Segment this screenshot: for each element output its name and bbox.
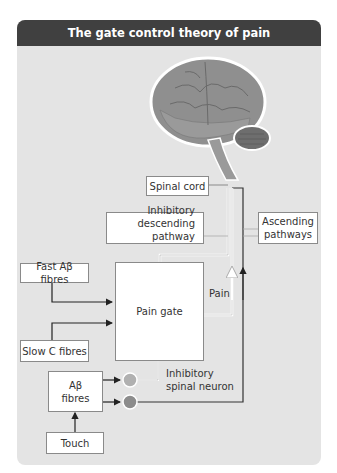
pain-gate-box: Pain gate	[115, 262, 204, 361]
slow-fibres-box: Slow C fibres	[20, 340, 89, 362]
inhibitory-descending-label-1: Inhibitory	[147, 204, 195, 217]
pain-label: Pain	[209, 287, 230, 300]
inhibitory-neuron-icon	[123, 373, 137, 387]
inhibitory-spinal-label-2: spinal neuron	[166, 380, 234, 393]
touch-box: Touch	[46, 432, 104, 454]
inhibitory-spinal-label-1: Inhibitory	[166, 367, 234, 380]
slow-fibres-label: Slow C fibres	[22, 345, 87, 358]
projection-neuron-icon	[123, 395, 137, 409]
ascending-pathways-box: Ascending pathways	[258, 212, 318, 244]
ab-fibres-label-2: fibres	[62, 392, 90, 405]
brain-icon	[151, 58, 270, 180]
ab-fibres-label-1: Aβ	[69, 379, 82, 392]
spinal-cord-box: Spinal cord	[146, 176, 209, 196]
ascending-label-2: pathways	[264, 228, 312, 241]
inhibitory-descending-label-2: descending pathway	[107, 217, 195, 243]
touch-label: Touch	[61, 437, 90, 450]
spinal-cord-label: Spinal cord	[150, 180, 206, 193]
ascending-label-1: Ascending	[262, 215, 314, 228]
inhibitory-descending-box: Inhibitory descending pathway	[106, 212, 204, 244]
inhibitory-spinal-neuron-label: Inhibitory spinal neuron	[166, 367, 234, 393]
fast-fibres-box: Fast Aβ fibres	[20, 263, 89, 283]
ab-fibres-box: Aβ fibres	[48, 371, 103, 412]
fast-fibres-label: Fast Aβ fibres	[21, 260, 88, 286]
pain-gate-label: Pain gate	[136, 305, 183, 318]
